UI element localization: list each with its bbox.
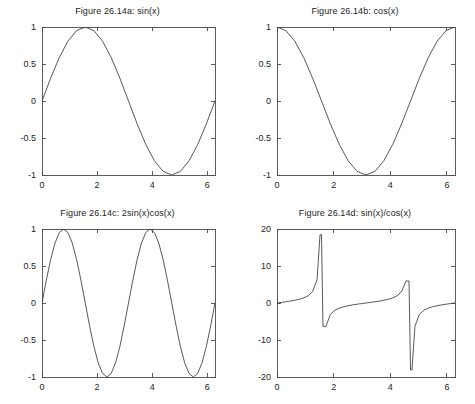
y-tick-label: 0 (31, 298, 36, 308)
data-curve (277, 235, 455, 370)
panel-a-plot: -1-0.500.510246 (0, 0, 235, 202)
y-tick-label: -20 (258, 372, 271, 382)
y-tick-label: -0.5 (20, 133, 36, 143)
x-tick-label: 6 (205, 382, 210, 392)
x-tick-label: 2 (95, 180, 100, 190)
y-tick-label: 0 (31, 96, 36, 106)
x-tick-label: 2 (331, 382, 336, 392)
panel-b-plot: -1-0.500.510246 (235, 0, 475, 202)
data-curve (42, 27, 215, 175)
x-tick-label: 4 (388, 180, 393, 190)
plot-panel-a: Figure 26.14a: sin(x) -1-0.500.510246 (0, 0, 235, 202)
x-tick-label: 4 (150, 382, 155, 392)
y-tick-label: -10 (258, 335, 271, 345)
y-tick-label: 0.5 (258, 59, 271, 69)
figure-grid: Figure 26.14a: sin(x) -1-0.500.510246 Fi… (0, 0, 475, 404)
x-tick-label: 0 (274, 180, 279, 190)
x-tick-label: 0 (39, 180, 44, 190)
y-tick-label: 1 (266, 22, 271, 32)
plot-panel-c: Figure 26.14c: 2sin(x)cos(x) -1-0.500.51… (0, 202, 235, 404)
y-tick-label: 0 (266, 298, 271, 308)
x-tick-label: 4 (150, 180, 155, 190)
x-tick-label: 4 (388, 382, 393, 392)
plot-panel-d: Figure 26.14d: sin(x)/cos(x) -20-1001020… (235, 202, 475, 404)
x-tick-label: 2 (331, 180, 336, 190)
panel-d-plot: -20-10010200246 (235, 202, 475, 404)
y-tick-label: 1 (31, 224, 36, 234)
x-tick-label: 6 (444, 382, 449, 392)
y-tick-label: 0.5 (23, 261, 36, 271)
data-curve (42, 229, 215, 377)
x-tick-label: 0 (274, 382, 279, 392)
x-tick-label: 6 (205, 180, 210, 190)
y-tick-label: -0.5 (255, 133, 271, 143)
data-curve (277, 27, 455, 175)
y-tick-label: -1 (28, 170, 36, 180)
y-tick-label: 20 (261, 224, 271, 234)
y-tick-label: 0.5 (23, 59, 36, 69)
y-tick-label: -1 (28, 372, 36, 382)
y-tick-label: 0 (266, 96, 271, 106)
y-tick-label: -0.5 (20, 335, 36, 345)
x-tick-label: 2 (95, 382, 100, 392)
plot-panel-b: Figure 26.14b: cos(x) -1-0.500.510246 (235, 0, 475, 202)
x-tick-label: 6 (444, 180, 449, 190)
y-tick-label: 10 (261, 261, 271, 271)
panel-c-plot: -1-0.500.510246 (0, 202, 235, 404)
y-tick-label: -1 (263, 170, 271, 180)
y-tick-label: 1 (31, 22, 36, 32)
x-tick-label: 0 (39, 382, 44, 392)
